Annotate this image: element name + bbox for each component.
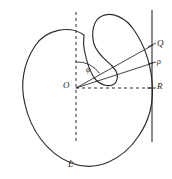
- closed-curve-L: [23, 14, 153, 166]
- label-curve-l: L: [68, 160, 73, 169]
- label-angle-phi: φ: [86, 66, 90, 74]
- figure-canvas: [0, 0, 172, 179]
- label-point-r: R: [157, 82, 163, 91]
- geometry-figure: O φ Q ρ R L: [0, 0, 172, 179]
- label-origin: O: [63, 81, 70, 90]
- label-point-p: ρ: [157, 58, 161, 66]
- label-point-q: Q: [157, 39, 164, 48]
